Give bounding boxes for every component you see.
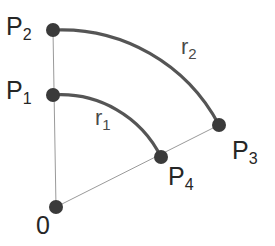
point-label-origin: 0 — [36, 213, 50, 238]
point-label-p3: P3 — [232, 138, 258, 163]
point-p1 — [46, 88, 60, 102]
point-label-p2-subscript: 2 — [23, 26, 32, 43]
geometry-diagram: P2 P1 P3 P4 0 r1 r2 — [0, 0, 275, 246]
point-origin — [49, 200, 63, 214]
point-label-p2: P2 — [6, 14, 32, 39]
point-p3 — [212, 118, 226, 132]
point-label-p1-subscript: 1 — [23, 90, 32, 107]
point-p2 — [46, 23, 60, 37]
point-p4 — [154, 150, 168, 164]
diagram-canvas — [0, 0, 275, 246]
point-label-p4: P4 — [168, 164, 194, 189]
point-label-p4-base: P — [168, 162, 185, 190]
arc-label-r1-subscript: 1 — [102, 116, 110, 133]
arc-label-r1: r1 — [95, 107, 111, 129]
arc-label-r2-subscript: 2 — [188, 45, 196, 62]
points-group — [46, 23, 226, 214]
point-label-p1-base: P — [6, 76, 23, 104]
point-label-p2-base: P — [6, 12, 23, 40]
point-label-origin-base: 0 — [36, 211, 50, 239]
point-label-p4-subscript: 4 — [185, 176, 194, 193]
point-label-p3-base: P — [232, 136, 249, 164]
point-label-p3-subscript: 3 — [249, 150, 258, 167]
arc-label-r2: r2 — [181, 36, 197, 58]
point-label-p1: P1 — [6, 78, 32, 103]
radial-line-origin-to-p2 — [53, 30, 56, 207]
radial-line-origin-to-p3 — [56, 125, 219, 207]
